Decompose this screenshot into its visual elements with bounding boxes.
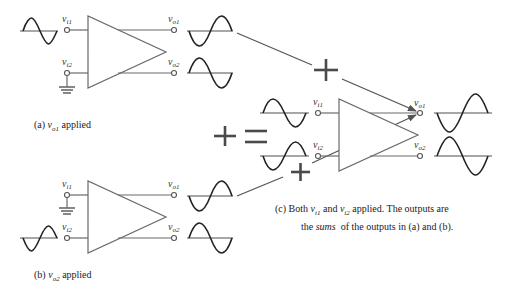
label-vi1: vi1 <box>313 96 323 109</box>
label-vi1: vi1 <box>62 178 72 191</box>
superposition-diagram: vi1 vi2 vo1 vo2 vi1 <box>0 0 509 286</box>
label-vo1: vo1 <box>168 13 179 26</box>
equals-operator-icon <box>245 131 267 142</box>
caption-emphasis: sums <box>316 221 336 232</box>
terminal-vi1 <box>65 28 70 33</box>
label-vo2: vo2 <box>168 221 180 234</box>
caption-text: the <box>301 221 316 232</box>
output-vo1-wave-icon <box>187 16 233 46</box>
terminal-vo2 <box>172 236 177 241</box>
input-sine-icon <box>20 18 58 44</box>
label-vo2: vo2 <box>414 139 426 152</box>
caption-text: of the outputs in (a) and (b). <box>336 221 453 232</box>
caption-panel-b: (b) vo2 applied <box>34 268 92 286</box>
caption-line-1: (c) Both vi1 and vi2 applied. The output… <box>275 202 453 220</box>
output-vo2-wave-icon <box>187 223 233 253</box>
caption-panel-c: (c) Both vi1 and vi2 applied. The output… <box>275 202 453 233</box>
label-vi2: vi2 <box>62 56 72 69</box>
output-vo2-wave-icon <box>434 137 492 175</box>
caption-panel-a: (a) vo1 applied <box>34 118 91 136</box>
label-vi2: vi2 <box>62 221 72 234</box>
terminal-vi1 <box>65 193 70 198</box>
ground-icon <box>59 76 75 94</box>
caption-line-2: the sums of the outputs in (a) and (b). <box>275 220 453 233</box>
terminal-vo1 <box>418 111 423 116</box>
caption-text: (b) <box>34 269 48 280</box>
caption-text: (a) <box>34 119 48 130</box>
plus-operator-top-icon <box>314 59 338 81</box>
label-vi2: vi2 <box>313 139 323 152</box>
label-vi1: vi1 <box>62 13 72 26</box>
output-vo2-wave-icon <box>187 58 233 88</box>
amplifier-triangle <box>339 99 418 171</box>
terminal-vi1 <box>316 111 321 116</box>
terminal-vo2 <box>172 71 177 76</box>
panel-a-circuit: vi1 vi2 vo1 vo2 <box>20 13 233 93</box>
caption-text: applied <box>59 119 91 130</box>
caption-sub: o2 <box>53 275 60 283</box>
amplifier-triangle <box>88 181 166 253</box>
terminal-vi2 <box>65 71 70 76</box>
plus-operator-bottom-icon <box>291 163 310 181</box>
caption-text: and <box>320 203 339 214</box>
input-sine-icon <box>20 226 58 251</box>
caption-text: (c) Both <box>275 203 311 214</box>
caption-sub: o1 <box>52 125 59 133</box>
input-sine-icon <box>260 99 309 127</box>
label-vo2: vo2 <box>168 56 180 69</box>
terminal-vo1 <box>172 28 177 33</box>
terminal-vi2 <box>65 236 70 241</box>
ground-icon <box>59 198 75 215</box>
terminal-vo2 <box>418 154 423 159</box>
panel-c-circuit: vi1 vi2 vo1 vo2 <box>260 94 492 175</box>
amplifier-triangle <box>88 16 166 88</box>
caption-text: applied. The outputs are <box>350 203 449 214</box>
terminal-vo1 <box>172 193 177 198</box>
panel-b-circuit: vi1 vi2 vo1 vo2 <box>20 178 233 253</box>
output-vo1-wave-icon <box>434 94 492 132</box>
label-vo1: vo1 <box>414 97 425 110</box>
terminal-vi2 <box>316 154 321 159</box>
summation-arrows <box>237 33 416 196</box>
caption-text: applied <box>60 269 92 280</box>
plus-operator-big-icon <box>214 126 236 146</box>
output-vo1-wave-icon <box>187 181 233 211</box>
label-vo1: vo1 <box>168 178 179 191</box>
